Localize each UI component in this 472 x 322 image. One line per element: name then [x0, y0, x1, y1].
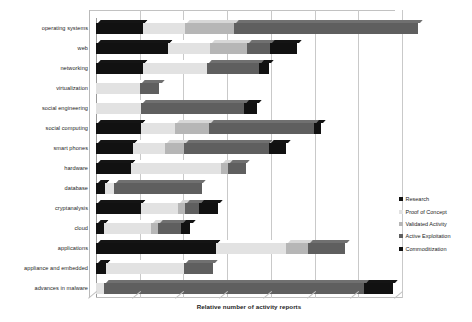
bar-segment [216, 243, 286, 254]
bar-segment [178, 203, 185, 214]
bar-segment [181, 223, 191, 234]
bar-row [96, 103, 257, 114]
bar-segment [207, 63, 259, 74]
bar-row [96, 23, 418, 34]
bar-segment [96, 283, 104, 294]
legend-item[interactable]: Commoditization [399, 243, 472, 255]
bar-segment [209, 123, 314, 134]
plot-area [96, 18, 402, 298]
bar-segment [270, 43, 297, 54]
legend-swatch-icon [399, 234, 403, 238]
category-axis: operating systemswebnetworkingvirtualiza… [0, 18, 88, 298]
bar-segment [234, 23, 418, 34]
bar-segment [165, 143, 184, 154]
category-label: database [0, 185, 88, 191]
bar-segment [106, 263, 185, 274]
bar-segment [210, 43, 247, 54]
value-axis-line [96, 18, 97, 298]
bar-segment [96, 43, 168, 54]
bar-row [96, 243, 345, 254]
category-label: cloud [0, 225, 88, 231]
bar-row [96, 183, 202, 194]
legend-item[interactable]: Validated Activity [399, 218, 472, 230]
category-label: social computing [0, 125, 88, 131]
bar-segment [286, 243, 308, 254]
bar-segment [184, 143, 268, 154]
bar-row [96, 263, 213, 274]
legend-label: Active Exploitation [406, 233, 451, 239]
legend-swatch-icon [399, 222, 403, 226]
bar-row [96, 63, 269, 74]
bar-segment [96, 23, 143, 34]
bar-segment [104, 283, 364, 294]
bar-segment [247, 43, 271, 54]
bar-segment [244, 103, 257, 114]
legend-label: Commoditization [406, 246, 447, 252]
category-label: smart phones [0, 145, 88, 151]
bar-row [96, 143, 286, 154]
bar-segment [228, 163, 245, 174]
legend-label: Proof of Concept [406, 209, 447, 215]
legend-item[interactable]: Active Exploitation [399, 230, 472, 242]
bar-segment [96, 243, 216, 254]
legend-swatch-icon [399, 247, 403, 251]
bar-segment [140, 83, 160, 94]
bar-segment [143, 63, 206, 74]
category-label: social engineering [0, 105, 88, 111]
bar-segment [269, 143, 286, 154]
legend-item[interactable]: Research [399, 193, 472, 205]
bar-segment [96, 143, 133, 154]
legend-label: Validated Activity [406, 221, 447, 227]
category-label: networking [0, 65, 88, 71]
bar-segment [96, 203, 141, 214]
bar-segment [158, 223, 181, 234]
bar-segment [308, 243, 345, 254]
bar-segment [168, 43, 210, 54]
legend-item[interactable]: Proof of Concept [399, 205, 472, 217]
category-label: cryptanalysis [0, 205, 88, 211]
category-axis-line [96, 297, 402, 298]
bar-row [96, 83, 159, 94]
bar-segment [185, 203, 199, 214]
bar-segment [141, 103, 244, 114]
bar-segment [105, 183, 115, 194]
category-label: virtualization [0, 85, 88, 91]
bar-segment [141, 123, 175, 134]
category-label: web [0, 45, 88, 51]
bar-row [96, 203, 218, 214]
bar-row [96, 123, 321, 134]
bar-segment [141, 203, 178, 214]
legend-label: Research [406, 196, 430, 202]
bar-row [96, 223, 190, 234]
bar-segment [114, 183, 201, 194]
bar-row [96, 43, 297, 54]
bar-segment [199, 203, 218, 214]
x-axis-title: Relative number of activity reports [96, 303, 402, 310]
bar-segment [364, 283, 393, 294]
bar-row [96, 163, 246, 174]
gridline [358, 10, 359, 298]
gridline [315, 10, 316, 298]
bar-segment [96, 63, 143, 74]
bar-segment [221, 163, 229, 174]
bar-segment [133, 143, 165, 154]
bar-segment [185, 23, 234, 34]
bar-segment [96, 103, 141, 114]
bar-segment [104, 223, 151, 234]
chart-legend: ResearchProof of ConceptValidated Activi… [399, 193, 472, 255]
bar-segment [143, 23, 185, 34]
category-label: advances in malware [0, 285, 88, 291]
bar-segment [96, 123, 141, 134]
bar-segment [259, 63, 269, 74]
chart-top-wall [89, 10, 395, 19]
bar-segment [96, 263, 106, 274]
bar-segment [131, 163, 221, 174]
bar-segment [96, 83, 140, 94]
legend-swatch-icon [399, 197, 403, 201]
bar-segment [96, 163, 131, 174]
bar-segment [175, 123, 209, 134]
stacked-bar-chart: operating systemswebnetworkingvirtualiza… [0, 0, 472, 322]
category-label: hardware [0, 165, 88, 171]
bar-segment [151, 223, 158, 234]
bar-segment [314, 123, 321, 134]
